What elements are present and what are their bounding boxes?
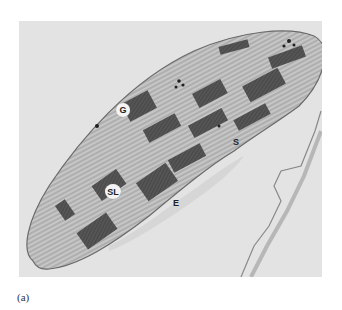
label-stroma-lamellae: SL — [105, 184, 121, 199]
label-envelope: E — [169, 196, 183, 210]
label-starch: S — [229, 135, 243, 149]
figure-caption: (a) — [17, 291, 29, 303]
chloroplast-illustration — [19, 21, 322, 277]
label-grana: G — [116, 103, 130, 117]
figure: G S SL E (a) — [0, 0, 342, 310]
chloroplast-micrograph — [19, 21, 322, 277]
